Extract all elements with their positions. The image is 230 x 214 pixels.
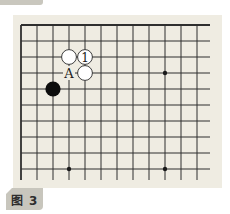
go-board: A1 (0, 0, 230, 214)
white-stone (62, 50, 77, 65)
go-diagram-figure: A1 图 3 (0, 0, 230, 214)
star-point (67, 167, 71, 171)
black-stone (45, 81, 60, 96)
star-point (163, 167, 167, 171)
figure-label: 图 3 (6, 188, 43, 210)
point-marker-label: A (63, 66, 74, 81)
star-point (163, 71, 167, 75)
white-stone (78, 66, 93, 81)
stone-move-number: 1 (81, 51, 89, 65)
